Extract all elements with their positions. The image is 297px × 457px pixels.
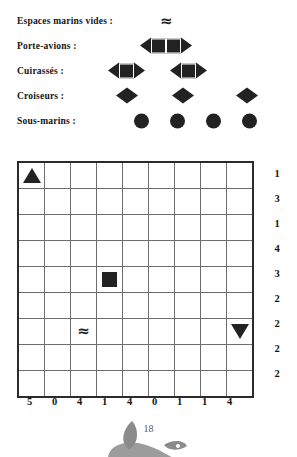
grid-cell[interactable]	[123, 241, 149, 267]
grid-cell[interactable]	[71, 371, 97, 398]
grid-row	[18, 215, 253, 241]
grid-cell[interactable]	[18, 189, 45, 215]
grid-cell[interactable]	[123, 162, 149, 189]
legend-ships-submarine	[110, 108, 297, 133]
grid-cell[interactable]	[175, 345, 201, 371]
grid-cell[interactable]	[201, 162, 227, 189]
grid-cell[interactable]	[149, 371, 175, 398]
grid-cell[interactable]	[97, 189, 123, 215]
submarine-icon	[206, 112, 221, 129]
grid-cell[interactable]	[18, 319, 45, 345]
ship-stern-shape	[134, 63, 145, 79]
grid-cell[interactable]	[227, 345, 254, 371]
grid-cell[interactable]	[201, 319, 227, 345]
grid-cell[interactable]	[175, 267, 201, 293]
grid-row	[18, 162, 253, 189]
grid-cell[interactable]	[227, 371, 254, 398]
grid-cell[interactable]	[45, 371, 71, 398]
grid-cell[interactable]	[97, 371, 123, 398]
grid-cell-filled[interactable]: ≈	[71, 319, 97, 345]
grid-cell[interactable]	[123, 371, 149, 398]
grid-cell[interactable]	[45, 345, 71, 371]
grid-cell[interactable]	[149, 241, 175, 267]
grid-cell[interactable]	[201, 241, 227, 267]
grid-cell[interactable]	[18, 371, 45, 398]
grid-cell[interactable]	[45, 215, 71, 241]
grid-cell[interactable]	[227, 215, 254, 241]
grid-cell[interactable]	[201, 371, 227, 398]
grid-cell[interactable]	[149, 345, 175, 371]
grid-cell[interactable]	[175, 215, 201, 241]
grid-cell[interactable]	[201, 189, 227, 215]
submarine-circle-shape	[206, 113, 221, 128]
grid-cell[interactable]	[45, 241, 71, 267]
grid-cell[interactable]	[227, 267, 254, 293]
legend-ships-battleship	[110, 58, 297, 83]
grid-cell[interactable]	[149, 162, 175, 189]
grid-cell-filled[interactable]	[227, 319, 254, 345]
grid-cell[interactable]	[97, 293, 123, 319]
grid-cell[interactable]	[175, 162, 201, 189]
grid-cell[interactable]	[45, 293, 71, 319]
grid-cell[interactable]	[45, 162, 71, 189]
grid-cell[interactable]	[71, 241, 97, 267]
grid-cell[interactable]	[175, 189, 201, 215]
grid-cell[interactable]	[18, 241, 45, 267]
row-clue: 4	[262, 236, 292, 261]
grid-cell[interactable]	[175, 241, 201, 267]
grid-cell[interactable]	[201, 267, 227, 293]
grid-cell[interactable]	[175, 371, 201, 398]
submarine-icon	[134, 112, 149, 129]
grid-cell[interactable]	[97, 162, 123, 189]
grid-cell[interactable]	[18, 267, 45, 293]
grid-cell[interactable]	[123, 319, 149, 345]
page-footer: 18	[0, 418, 297, 457]
legend-ships-aircraft-carrier	[110, 33, 297, 58]
grid-cell[interactable]	[71, 162, 97, 189]
grid-cell[interactable]	[71, 267, 97, 293]
submarine-circle-shape	[134, 113, 149, 128]
grid-cell[interactable]	[201, 293, 227, 319]
grid-cell[interactable]	[123, 215, 149, 241]
grid-cell[interactable]	[201, 345, 227, 371]
grid-cell[interactable]	[175, 319, 201, 345]
ship-bow-shape	[116, 88, 127, 104]
grid-cell[interactable]	[18, 215, 45, 241]
grid-cell[interactable]	[123, 267, 149, 293]
grid-cell[interactable]	[97, 241, 123, 267]
grid-cell[interactable]	[149, 189, 175, 215]
grid-cell[interactable]	[71, 293, 97, 319]
grid-cell[interactable]	[123, 189, 149, 215]
grid-cell[interactable]	[175, 293, 201, 319]
grid-cell[interactable]	[45, 189, 71, 215]
grid-cell-filled[interactable]	[97, 267, 123, 293]
ship-bow-shape	[236, 88, 247, 104]
wave-glyph: ≈	[160, 13, 173, 28]
grid-cell[interactable]	[123, 345, 149, 371]
mark-wave-wrapper: ≈	[71, 319, 96, 344]
grid-cell[interactable]	[201, 215, 227, 241]
grid-cell[interactable]	[45, 267, 71, 293]
grid-cell[interactable]	[227, 293, 254, 319]
grid-cell[interactable]	[149, 267, 175, 293]
grid-cell[interactable]	[149, 319, 175, 345]
grid-cell[interactable]	[97, 215, 123, 241]
row-clue: 1	[262, 161, 292, 186]
grid-cell[interactable]	[123, 293, 149, 319]
grid-cell[interactable]	[227, 162, 254, 189]
grid-cell[interactable]	[97, 345, 123, 371]
grid-cell[interactable]	[71, 215, 97, 241]
grid-cell[interactable]	[97, 319, 123, 345]
grid-cell[interactable]	[71, 189, 97, 215]
grid-cell[interactable]	[45, 319, 71, 345]
grid-cell[interactable]	[18, 293, 45, 319]
grid-cell[interactable]	[227, 189, 254, 215]
grid-cell[interactable]	[149, 215, 175, 241]
grid-cell[interactable]	[149, 293, 175, 319]
grid-cell[interactable]	[71, 345, 97, 371]
grid-cell[interactable]	[18, 345, 45, 371]
grid-cell-filled[interactable]	[18, 162, 45, 189]
puzzle-grid[interactable]: ≈	[17, 161, 254, 398]
grid-cell[interactable]	[227, 241, 254, 267]
grid-row	[18, 371, 253, 398]
